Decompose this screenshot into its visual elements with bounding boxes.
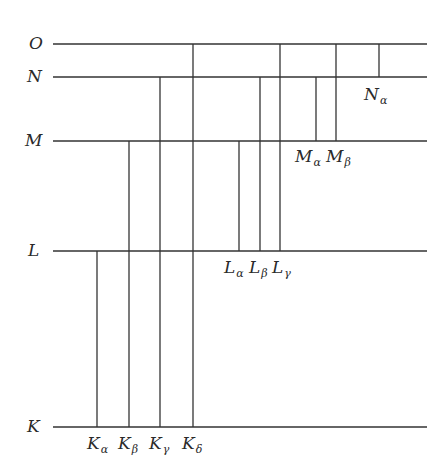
transition-label-l-alpha: Lα bbox=[224, 259, 244, 279]
level-label-m: M bbox=[25, 132, 42, 149]
transition-label-k-delta: Kδ bbox=[182, 435, 202, 455]
transition-label-m-alpha: Mα bbox=[295, 148, 321, 168]
transition-label-l-beta: Lβ bbox=[249, 259, 268, 279]
level-label-o: O bbox=[29, 35, 43, 52]
level-label-l: L bbox=[28, 242, 39, 259]
transition-label-k-alpha: Kα bbox=[87, 435, 108, 455]
level-label-n: N bbox=[27, 68, 42, 85]
level-label-k: K bbox=[27, 418, 40, 435]
transition-label-k-gamma: Kγ bbox=[149, 435, 169, 455]
transition-label-n-alpha: Nα bbox=[364, 86, 387, 106]
transition-label-m-beta: Mβ bbox=[326, 148, 351, 168]
transition-label-l-gamma: Lγ bbox=[272, 259, 291, 279]
transition-label-k-beta: Kβ bbox=[118, 435, 138, 455]
energy-level-diagram bbox=[0, 0, 441, 474]
transitions bbox=[97, 44, 379, 427]
